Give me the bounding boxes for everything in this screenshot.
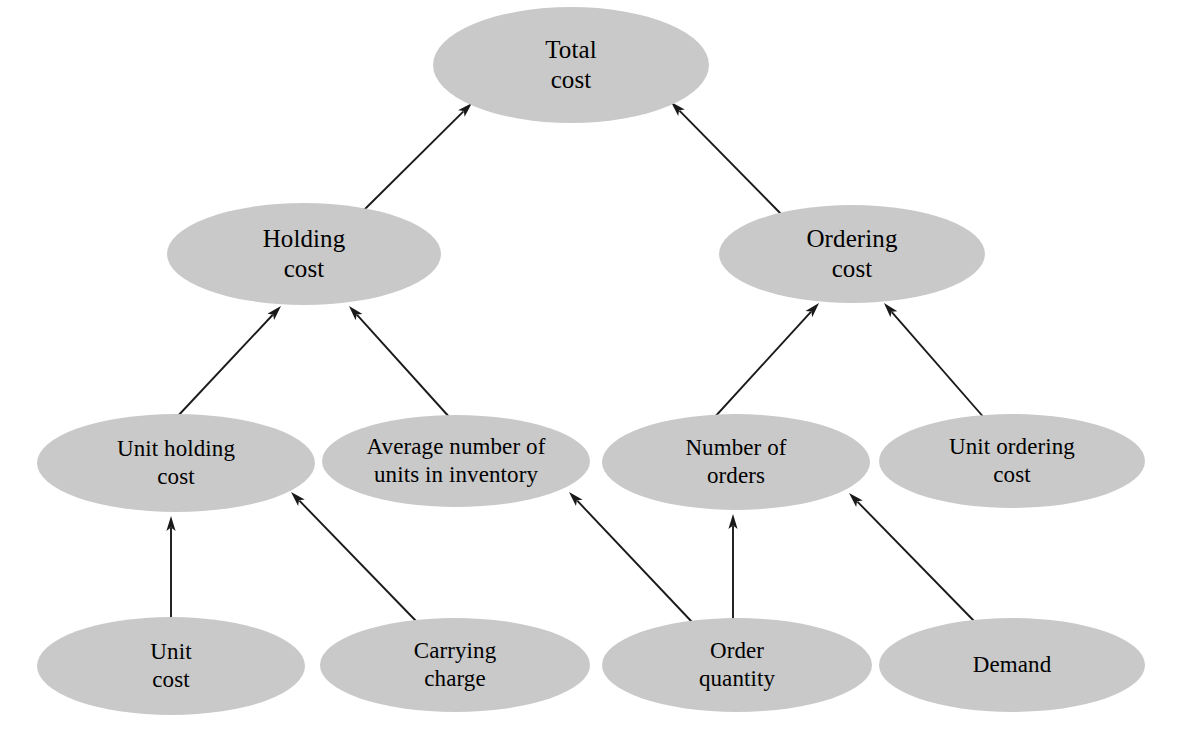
node-unit-ordering-cost[interactable]: Unit ordering cost	[879, 414, 1145, 508]
node-label: Total cost	[545, 35, 597, 96]
node-label: Demand	[973, 651, 1052, 679]
node-carrying-charge[interactable]: Carrying charge	[320, 618, 590, 712]
arrowhead-icon	[267, 306, 281, 320]
node-label: Order quantity	[699, 637, 775, 693]
edge-line	[857, 502, 975, 622]
edge-line	[176, 315, 273, 418]
edge-line	[299, 501, 416, 621]
arrowhead-icon	[671, 102, 685, 116]
arrowhead-icon	[805, 303, 819, 317]
edge-line	[679, 111, 782, 215]
node-order-quantity[interactable]: Order quantity	[602, 618, 872, 712]
edge-holding-to-total	[362, 103, 472, 212]
edge-unitordering-to-ordering	[884, 303, 986, 420]
edge-numorders-to-ordering	[713, 303, 819, 419]
node-unit-holding-cost[interactable]: Unit holding cost	[37, 414, 315, 512]
edge-avgunits-to-holding	[349, 306, 451, 419]
arrowhead-icon	[884, 303, 897, 317]
node-label: Unit ordering cost	[949, 433, 1075, 489]
edge-ordering-to-total	[671, 102, 782, 215]
node-holding-cost[interactable]: Holding cost	[167, 203, 441, 305]
arrowhead-icon	[349, 306, 362, 320]
edge-line	[577, 501, 692, 622]
edge-unitholding-to-holding	[176, 306, 281, 418]
arrowhead-icon	[291, 492, 305, 506]
node-label: Average number of units in inventory	[367, 433, 546, 489]
edge-carrying-to-unitholding	[291, 492, 416, 621]
edge-line	[362, 111, 463, 212]
arrowhead-icon	[166, 516, 175, 531]
node-label: Unit cost	[150, 638, 191, 694]
edge-line	[713, 312, 811, 419]
node-unit-cost[interactable]: Unit cost	[37, 617, 305, 715]
node-label: Number of orders	[685, 434, 786, 490]
arrowhead-icon	[569, 492, 583, 506]
diagram-canvas: Total costHolding costOrdering costUnit …	[0, 0, 1184, 743]
node-demand[interactable]: Demand	[879, 618, 1145, 712]
arrowhead-icon	[728, 514, 737, 529]
node-total-cost[interactable]: Total cost	[433, 7, 709, 123]
edge-orderqty-to-avgunits	[569, 492, 692, 622]
edge-line	[357, 315, 451, 419]
arrowhead-icon	[458, 103, 472, 117]
edge-demand-to-numorders	[849, 493, 975, 622]
edge-line	[892, 312, 986, 420]
node-label: Ordering cost	[806, 224, 897, 285]
edge-unitcost-to-unitholding	[166, 516, 175, 621]
node-label: Carrying charge	[414, 637, 497, 693]
arrowhead-icon	[849, 493, 863, 507]
node-ordering-cost[interactable]: Ordering cost	[719, 205, 985, 303]
node-number-of-orders[interactable]: Number of orders	[602, 414, 870, 510]
edge-orderqty-to-numorders	[728, 514, 737, 620]
node-label: Holding cost	[263, 224, 346, 285]
node-average-units-inventory[interactable]: Average number of units in inventory	[322, 415, 590, 507]
node-label: Unit holding cost	[117, 435, 235, 491]
